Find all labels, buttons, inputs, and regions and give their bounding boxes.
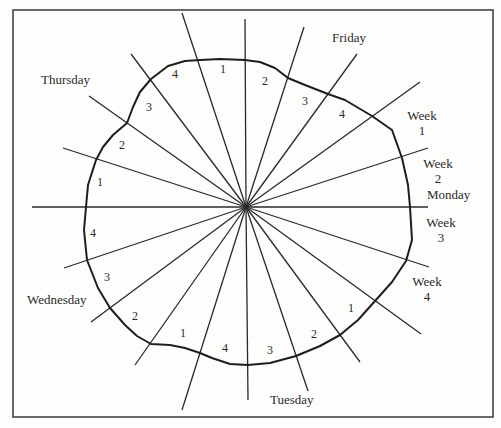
week-4-number: 4 <box>407 289 447 304</box>
radial-rays <box>32 13 429 410</box>
ray-line <box>89 96 246 207</box>
ray-line <box>246 27 304 207</box>
week-2-number: 2 <box>418 171 458 186</box>
segment-number: 2 <box>132 309 138 324</box>
segment-number: 3 <box>267 343 273 358</box>
label-week-3: Week 3 <box>421 215 461 245</box>
label-thursday: Thursday <box>41 72 90 87</box>
ray-line <box>182 13 246 207</box>
segment-number: 3 <box>146 100 152 115</box>
label-monday: Monday <box>427 187 470 202</box>
label-week-1: Week 1 <box>402 108 442 138</box>
ray-line <box>91 207 246 322</box>
week-4-word: Week <box>407 274 447 289</box>
ray-line <box>246 207 248 400</box>
label-friday: Friday <box>332 30 366 45</box>
week-1-word: Week <box>402 108 442 123</box>
week-1-number: 1 <box>402 123 442 138</box>
ray-line <box>182 207 246 410</box>
segment-number: 1 <box>97 175 103 190</box>
week-2-word: Week <box>418 156 458 171</box>
segment-number: 2 <box>262 74 268 89</box>
label-tuesday: Tuesday <box>270 392 314 407</box>
ray-line <box>131 54 246 207</box>
segment-number: 4 <box>172 67 178 82</box>
ray-line <box>246 207 360 362</box>
segment-number: 1 <box>220 62 226 77</box>
segment-number: 3 <box>104 270 110 285</box>
segment-number: 4 <box>222 341 228 356</box>
radial-diagram <box>0 0 501 428</box>
segment-number: 4 <box>339 107 345 122</box>
segment-number: 1 <box>348 301 354 316</box>
segment-number: 2 <box>311 327 317 342</box>
label-wednesday: Wednesday <box>27 292 87 307</box>
ray-line <box>246 82 420 207</box>
ray-line <box>135 207 246 365</box>
ray-line <box>246 207 421 334</box>
label-week-4: Week 4 <box>407 274 447 304</box>
week-3-word: Week <box>421 215 461 230</box>
label-week-2: Week 2 <box>418 156 458 186</box>
ray-line <box>245 19 246 207</box>
segment-number: 1 <box>180 326 186 341</box>
segment-number: 4 <box>90 226 96 241</box>
week-3-number: 3 <box>421 230 461 245</box>
segment-number: 3 <box>302 94 308 109</box>
segment-number: 2 <box>119 138 125 153</box>
ray-line <box>246 207 429 267</box>
